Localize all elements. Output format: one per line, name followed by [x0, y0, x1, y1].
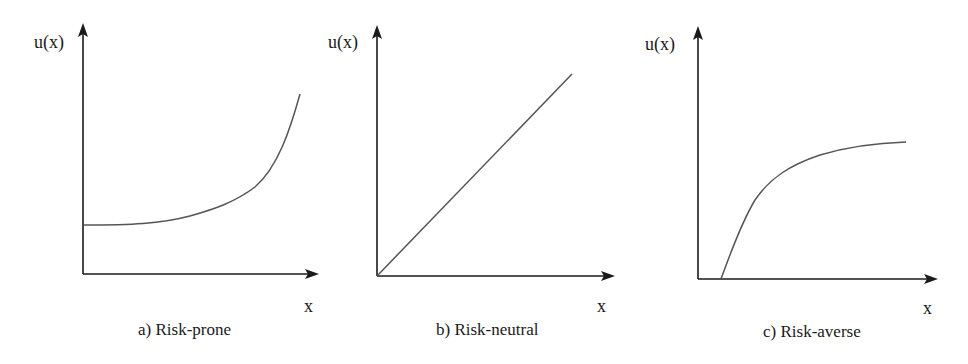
y-axis-label: u(x): [645, 34, 675, 55]
x-axis-label: x: [923, 298, 932, 318]
panel-caption: a) Risk-prone: [138, 320, 231, 339]
panel-risk-prone: u(x) x a) Risk-prone: [34, 23, 319, 339]
y-axis-label: u(x): [328, 32, 358, 53]
panel-risk-averse: u(x) x c) Risk-averse: [645, 26, 938, 341]
utility-functions-figure: u(x) x a) Risk-prone u(x) x b) Risk-neut…: [0, 0, 968, 364]
utility-line-linear: [377, 74, 572, 276]
utility-curve-convex: [84, 94, 300, 225]
x-axis-label: x: [597, 296, 606, 316]
panel-caption: c) Risk-averse: [763, 322, 861, 341]
panel-risk-neutral: u(x) x b) Risk-neutral: [328, 25, 615, 339]
panel-caption: b) Risk-neutral: [436, 320, 539, 339]
utility-curve-concave: [721, 142, 906, 279]
x-axis-label: x: [304, 296, 313, 316]
y-axis-label: u(x): [34, 32, 64, 53]
